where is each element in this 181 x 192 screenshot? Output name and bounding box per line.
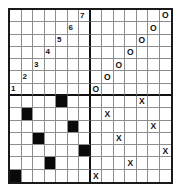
cell-letter-x[interactable]: X <box>160 145 172 157</box>
cell-empty[interactable] <box>33 47 45 59</box>
cell-empty[interactable] <box>33 35 45 47</box>
cell-empty[interactable] <box>160 108 172 120</box>
cell-empty[interactable] <box>114 35 126 47</box>
cell-empty[interactable] <box>45 170 57 182</box>
cell-empty[interactable] <box>125 10 137 22</box>
cell-empty[interactable] <box>68 47 80 59</box>
cell-empty[interactable] <box>68 108 80 120</box>
cell-empty[interactable] <box>22 133 34 145</box>
cell-empty[interactable] <box>10 35 22 47</box>
cell-empty[interactable] <box>45 108 57 120</box>
cell-empty[interactable] <box>102 145 114 157</box>
cell-empty[interactable] <box>22 10 34 22</box>
cell-empty[interactable] <box>10 47 22 59</box>
cell-empty[interactable] <box>137 10 149 22</box>
cell-empty[interactable] <box>22 47 34 59</box>
cell-empty[interactable] <box>148 96 160 108</box>
cell-empty[interactable] <box>125 145 137 157</box>
cell-empty[interactable] <box>114 71 126 83</box>
cell-empty[interactable] <box>160 47 172 59</box>
cell-empty[interactable] <box>160 35 172 47</box>
cell-empty[interactable] <box>102 22 114 34</box>
cell-empty[interactable] <box>137 84 149 96</box>
cell-empty[interactable] <box>160 84 172 96</box>
cell-empty[interactable] <box>10 59 22 71</box>
cell-empty[interactable] <box>160 170 172 182</box>
cell-empty[interactable] <box>160 121 172 133</box>
cell-empty[interactable] <box>160 96 172 108</box>
cell-empty[interactable] <box>56 121 68 133</box>
cell-letter-x[interactable]: X <box>137 96 149 108</box>
cell-empty[interactable] <box>137 121 149 133</box>
cell-empty[interactable] <box>22 145 34 157</box>
cell-empty[interactable] <box>33 84 45 96</box>
cell-empty[interactable] <box>125 22 137 34</box>
cell-empty[interactable] <box>102 47 114 59</box>
cell-empty[interactable] <box>102 10 114 22</box>
cell-empty[interactable] <box>137 22 149 34</box>
cell-empty[interactable] <box>137 157 149 169</box>
cell-number[interactable]: 2 <box>22 71 34 83</box>
cell-empty[interactable] <box>160 22 172 34</box>
cell-empty[interactable] <box>137 133 149 145</box>
cell-number[interactable]: 4 <box>45 47 57 59</box>
cell-empty[interactable] <box>22 157 34 169</box>
cell-empty[interactable] <box>45 59 57 71</box>
cell-letter-o[interactable]: O <box>137 35 149 47</box>
cell-empty[interactable] <box>102 121 114 133</box>
cell-empty[interactable] <box>137 59 149 71</box>
cell-empty[interactable] <box>33 96 45 108</box>
cell-empty[interactable] <box>56 71 68 83</box>
cell-empty[interactable] <box>148 10 160 22</box>
cell-empty[interactable] <box>102 133 114 145</box>
cell-empty[interactable] <box>10 145 22 157</box>
cell-empty[interactable] <box>114 170 126 182</box>
cell-empty[interactable] <box>33 145 45 157</box>
cell-empty[interactable] <box>79 121 91 133</box>
cell-empty[interactable] <box>160 157 172 169</box>
cell-empty[interactable] <box>114 96 126 108</box>
cell-empty[interactable] <box>160 59 172 71</box>
cell-empty[interactable] <box>91 121 103 133</box>
cell-empty[interactable] <box>56 133 68 145</box>
cell-empty[interactable] <box>68 35 80 47</box>
cell-empty[interactable] <box>79 108 91 120</box>
cell-empty[interactable] <box>114 10 126 22</box>
cell-empty[interactable] <box>33 170 45 182</box>
cell-empty[interactable] <box>79 133 91 145</box>
cell-empty[interactable] <box>148 47 160 59</box>
cell-empty[interactable] <box>148 145 160 157</box>
cell-empty[interactable] <box>22 22 34 34</box>
cell-empty[interactable] <box>10 10 22 22</box>
cell-letter-o[interactable]: O <box>102 71 114 83</box>
cell-empty[interactable] <box>56 10 68 22</box>
cell-empty[interactable] <box>125 170 137 182</box>
cell-letter-o[interactable]: O <box>160 10 172 22</box>
cell-empty[interactable] <box>33 71 45 83</box>
cell-empty[interactable] <box>148 133 160 145</box>
cell-empty[interactable] <box>125 59 137 71</box>
cell-empty[interactable] <box>56 22 68 34</box>
cell-empty[interactable] <box>91 71 103 83</box>
cell-empty[interactable] <box>91 22 103 34</box>
cell-empty[interactable] <box>45 22 57 34</box>
cell-empty[interactable] <box>125 84 137 96</box>
cell-filled[interactable] <box>22 108 34 120</box>
cell-empty[interactable] <box>68 145 80 157</box>
cell-number[interactable]: 6 <box>68 22 80 34</box>
cell-empty[interactable] <box>114 47 126 59</box>
cell-filled[interactable] <box>33 133 45 145</box>
cell-empty[interactable] <box>125 108 137 120</box>
cell-empty[interactable] <box>102 170 114 182</box>
cell-empty[interactable] <box>148 170 160 182</box>
cell-empty[interactable] <box>45 71 57 83</box>
cell-empty[interactable] <box>125 71 137 83</box>
cell-letter-o[interactable]: O <box>114 59 126 71</box>
cell-empty[interactable] <box>79 35 91 47</box>
cell-empty[interactable] <box>91 59 103 71</box>
cell-empty[interactable] <box>68 96 80 108</box>
cell-empty[interactable] <box>137 145 149 157</box>
cell-empty[interactable] <box>102 96 114 108</box>
cell-empty[interactable] <box>45 10 57 22</box>
cell-empty[interactable] <box>68 133 80 145</box>
